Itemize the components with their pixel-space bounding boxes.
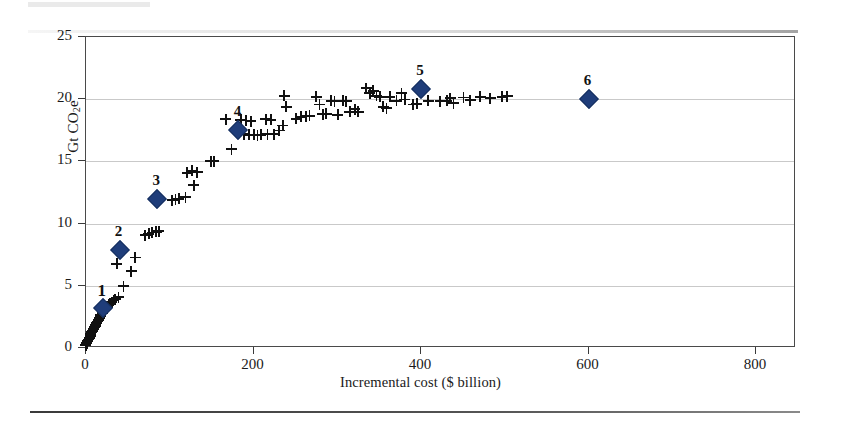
x-tick-400 (420, 347, 421, 354)
scan-artifact-rule (28, 30, 798, 33)
highlight-label-5: 5 (410, 62, 430, 79)
x-axis-title: Incremental cost ($ billion) (0, 374, 841, 391)
y-tick-label-10: 10 (32, 215, 72, 230)
plot-area (85, 36, 795, 347)
x-tick-200 (253, 347, 254, 354)
x-tick-label-800: 800 (725, 356, 785, 372)
gridline-y-5 (86, 286, 794, 287)
x-tick-label-0: 0 (55, 356, 115, 372)
figure-abatement-cost-curve: 0510152025 Gt CO2e 0200400600800 Increme… (0, 0, 841, 428)
highlight-label-4: 4 (227, 103, 247, 120)
x-tick-800 (755, 347, 756, 354)
y-tick-25 (78, 36, 85, 37)
x-tick-0 (85, 347, 86, 354)
highlight-label-3: 3 (146, 172, 166, 189)
footer-rule (30, 411, 800, 413)
y-tick-0 (78, 347, 85, 348)
highlight-label-6: 6 (578, 72, 598, 89)
gridline-y-20 (86, 99, 794, 100)
x-tick-600 (588, 347, 589, 354)
highlight-label-1: 1 (92, 281, 112, 301)
gridline-y-10 (86, 224, 794, 225)
y-tick-label-0: 0 (32, 339, 72, 354)
y-tick-5 (78, 285, 85, 286)
y-axis-title: Gt CO2e (65, 47, 82, 207)
y-tick-label-5: 5 (32, 277, 72, 292)
x-tick-label-600: 600 (558, 356, 618, 372)
gridline-y-15 (86, 161, 794, 162)
highlight-label-2: 2 (109, 223, 129, 240)
y-tick-label-25: 25 (32, 28, 72, 43)
x-tick-label-200: 200 (223, 356, 283, 372)
y-tick-10 (78, 223, 85, 224)
scan-artifact-top (28, 2, 150, 7)
x-tick-label-400: 400 (390, 356, 450, 372)
